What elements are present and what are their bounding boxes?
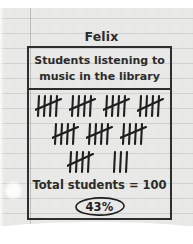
page-title: Felix <box>30 29 173 44</box>
torn-top-edge <box>0 0 193 8</box>
tally-row <box>29 92 170 120</box>
torn-bottom-edge <box>0 226 193 244</box>
tally-group-five-icon <box>52 121 80 147</box>
tally-group-five-icon <box>86 121 114 147</box>
tally-group-five-icon <box>67 149 95 175</box>
tally-group-five-icon <box>103 93 131 119</box>
header-line-2: music in the library <box>39 69 160 85</box>
circled-answer-ellipse: 43% <box>74 196 126 217</box>
header-line-1: Students listening to <box>34 53 165 69</box>
tally-row <box>29 148 180 176</box>
tally-group-five-icon <box>69 93 97 119</box>
tally-chart-header: Students listening to music in the libra… <box>29 48 170 90</box>
tally-group-five-icon <box>120 121 148 147</box>
tally-marks-area <box>29 90 170 176</box>
percentage-answer: 43% <box>29 196 170 217</box>
tally-group-five-icon <box>137 93 165 119</box>
tally-row <box>29 120 184 148</box>
tally-chart-box: Students listening to music in the libra… <box>27 46 172 220</box>
tally-group-five-icon <box>35 93 63 119</box>
tally-singles-icon <box>111 149 133 175</box>
total-students-label: Total students = 100 <box>29 178 170 192</box>
worksheet-page: Felix Students listening to music in the… <box>0 0 193 244</box>
percentage-value: 43% <box>85 200 113 214</box>
hole-punch <box>7 184 20 197</box>
